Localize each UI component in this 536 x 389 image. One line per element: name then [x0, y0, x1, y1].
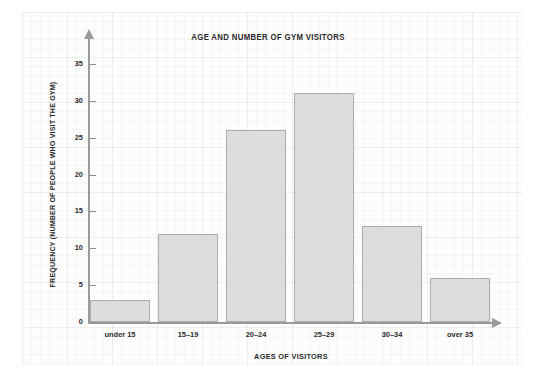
- y-tick-mark: [90, 175, 96, 176]
- y-tick-mark: [90, 285, 96, 286]
- x-category-label: under 15: [92, 330, 148, 339]
- x-category-label: 30–34: [364, 330, 420, 339]
- y-tick-label: 0: [59, 317, 83, 326]
- y-axis-line: [88, 38, 90, 324]
- bar: [226, 130, 286, 322]
- y-tick-label: 5: [59, 280, 83, 289]
- y-tick-mark: [90, 101, 96, 102]
- y-tick-label: 30: [59, 96, 83, 105]
- bar-chart: AGE AND NUMBER OF GYM VISITORS 051015202…: [0, 0, 536, 389]
- y-axis-title: FREQUENCY (NUMBER OF PEOPLE WHO VISIT TH…: [48, 64, 57, 306]
- y-tick-label: 35: [59, 59, 83, 68]
- x-category-label: 20–24: [228, 330, 284, 339]
- x-category-label: 25–29: [296, 330, 352, 339]
- y-tick-label: 20: [59, 170, 83, 179]
- y-tick-label: 25: [59, 133, 83, 142]
- y-tick-mark: [90, 64, 96, 65]
- y-tick-label: 15: [59, 206, 83, 215]
- x-axis-line: [88, 322, 494, 324]
- y-tick-mark: [90, 138, 96, 139]
- y-tick-mark: [90, 211, 96, 212]
- y-axis-arrow-icon: [84, 29, 94, 39]
- bar: [90, 300, 150, 322]
- bar: [294, 93, 354, 322]
- y-tick-mark: [90, 322, 96, 323]
- chart-title: AGE AND NUMBER OF GYM VISITORS: [21, 32, 514, 42]
- bar: [362, 226, 422, 322]
- x-axis-title: AGES OF VISITORS: [104, 352, 478, 361]
- x-axis-arrow-icon: [492, 318, 502, 328]
- y-tick-mark: [90, 248, 96, 249]
- x-category-label: 15–19: [160, 330, 216, 339]
- y-tick-label: 10: [59, 243, 83, 252]
- chart-page: AGE AND NUMBER OF GYM VISITORS 051015202…: [0, 0, 536, 389]
- bar: [430, 278, 490, 322]
- bar: [158, 234, 218, 322]
- x-category-label: over 35: [432, 330, 488, 339]
